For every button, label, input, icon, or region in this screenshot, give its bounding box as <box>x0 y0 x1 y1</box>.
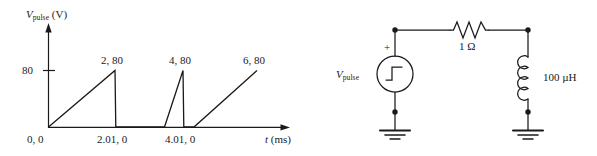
reset-label-2: 4.01, 0 <box>165 134 195 145</box>
ground-symbol-left <box>380 131 410 140</box>
x-axis <box>49 124 291 130</box>
sawtooth-waveform-trace <box>49 71 258 128</box>
circuit-diagram-panel: Vpulse + 1 Ω 100 µH <box>300 0 597 156</box>
y-axis-title-subscript: pulse <box>33 13 49 22</box>
x-axis-title-unit: (ms) <box>271 133 291 145</box>
step-waveform-glyph <box>386 67 402 80</box>
waveform-plot-svg <box>0 0 300 156</box>
x-axis-title-var: t <box>265 133 268 145</box>
y-axis-title-var: V <box>26 8 33 20</box>
source-circle <box>377 56 413 92</box>
y-axis <box>45 23 51 128</box>
origin-label: 0, 0 <box>27 134 44 145</box>
reset-label-1: 2.01, 0 <box>97 134 127 145</box>
inductor-coils <box>518 56 528 100</box>
resistor-value-label: 1 Ω <box>459 41 475 52</box>
source-polarity-plus: + <box>384 42 390 53</box>
y-axis-title-unit: (V) <box>52 8 67 20</box>
node-dot-top-right <box>525 27 530 32</box>
y-axis-title: Vpulse (V) <box>26 9 67 21</box>
source-label-subscript: pulse <box>343 73 359 82</box>
node-dot-bottom-left <box>392 109 397 114</box>
source-label-var: V <box>336 68 343 80</box>
inductor-value-label: 100 µH <box>543 72 577 83</box>
figure-root: Vpulse (V) 80 0, 0 2, 80 4, 80 6, 80 2.0… <box>0 0 597 156</box>
resistor-zigzag <box>450 22 489 38</box>
x-axis-title: t (ms) <box>265 134 291 145</box>
peak-label-1: 2, 80 <box>101 55 123 66</box>
source-label: Vpulse <box>336 69 359 81</box>
waveform-plot-panel: Vpulse (V) 80 0, 0 2, 80 4, 80 6, 80 2.0… <box>0 0 300 156</box>
node-dot-bottom-right <box>525 109 530 114</box>
node-dot-top-left <box>392 27 397 32</box>
ground-symbol-right <box>513 131 543 140</box>
y-tick-label-80: 80 <box>22 65 33 76</box>
peak-label-3: 6, 80 <box>243 55 265 66</box>
peak-label-2: 4, 80 <box>169 55 191 66</box>
